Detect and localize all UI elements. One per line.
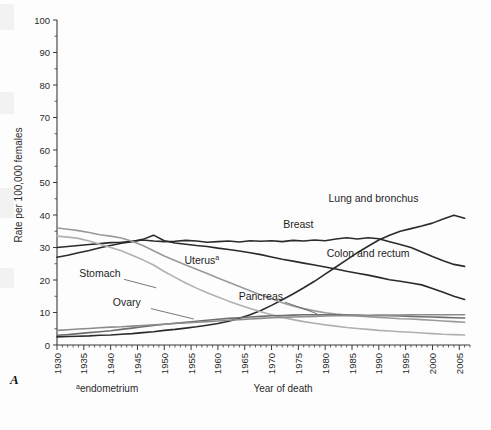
leader-ovary — [151, 309, 194, 319]
x-tick-label: 1950 — [159, 353, 170, 374]
series-label-breast: Breast — [283, 218, 313, 230]
x-axis-ticks: 1930193519401945195019551960196519701975… — [52, 345, 471, 374]
series-labels: Lung and bronchusBreastColon and rectumU… — [79, 192, 418, 308]
figure-page: 0102030405060708090100 19301935194019451… — [0, 0, 491, 430]
series-label-colon-and-rectum: Colon and rectum — [327, 247, 410, 259]
x-tick-label: 1935 — [78, 353, 89, 374]
leader-stomach — [124, 279, 156, 287]
leader-lines — [124, 279, 317, 319]
footnote: aendometrium — [76, 383, 138, 394]
series-label-lung-and-bronchus: Lung and bronchus — [329, 192, 419, 204]
y-tick-label: 100 — [34, 15, 50, 26]
y-tick-label: 30 — [39, 242, 50, 253]
x-tick-label: 1965 — [239, 353, 250, 374]
y-tick-label: 20 — [39, 275, 50, 286]
y-axis-title: Rate per 100,000 females — [13, 127, 24, 242]
series-label-ovary: Ovary — [113, 296, 142, 308]
x-tick-label: 2005 — [454, 353, 465, 374]
series-label-stomach: Stomach — [79, 267, 121, 279]
x-tick-label: 1970 — [266, 353, 277, 374]
x-tick-label: 1945 — [132, 353, 143, 374]
y-tick-label: 0 — [45, 340, 50, 351]
x-tick-label: 1985 — [347, 353, 358, 374]
leader-pancreas — [285, 302, 317, 314]
y-tick-label: 90 — [39, 47, 50, 58]
x-tick-label: 1990 — [373, 353, 384, 374]
y-tick-label: 60 — [39, 145, 50, 156]
x-tick-label: 1940 — [105, 353, 116, 374]
y-tick-label: 50 — [39, 177, 50, 188]
panel-letter: A — [9, 372, 19, 387]
x-tick-label: 1975 — [293, 353, 304, 374]
x-tick-label: 1995 — [400, 353, 411, 374]
y-tick-label: 80 — [39, 80, 50, 91]
y-tick-label: 70 — [39, 112, 50, 123]
x-tick-label: 1980 — [320, 353, 331, 374]
y-axis-ticks: 0102030405060708090100 — [34, 15, 57, 351]
y-tick-label: 40 — [39, 210, 50, 221]
y-tick-label: 10 — [39, 307, 50, 318]
cancer-mortality-line-chart: 0102030405060708090100 19301935194019451… — [0, 0, 491, 430]
x-tick-label: 1955 — [186, 353, 197, 374]
series-label-pancreas: Pancreas — [239, 290, 283, 302]
x-tick-label: 1960 — [212, 353, 223, 374]
x-axis-title: Year of death — [253, 383, 312, 394]
x-tick-label: 2000 — [427, 353, 438, 374]
series-label-uterus: Uterusa — [184, 254, 219, 266]
footnote-text: endometrium — [80, 383, 138, 394]
x-tick-label: 1930 — [52, 353, 63, 374]
